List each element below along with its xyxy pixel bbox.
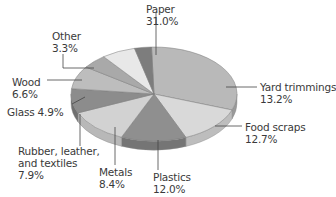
label-yard-trimmings: Yard trimmings13.2%: [260, 81, 336, 105]
label-text: Yard trimmings: [260, 81, 336, 93]
label-value: 8.4%: [99, 178, 132, 190]
label-text: Wood: [12, 76, 40, 88]
label-text: Other: [52, 30, 81, 42]
label-value: 3.3%: [52, 42, 81, 54]
label-value: 12.7%: [245, 133, 305, 145]
pie-slices: [71, 47, 237, 141]
label-value: 7.9%: [18, 169, 100, 181]
label-rubber-leather-and-textiles: Rubber, leather,and textiles7.9%: [18, 145, 100, 181]
label-paper: Paper31.0%: [146, 3, 178, 27]
label-text: and textiles: [18, 157, 100, 169]
label-value: 12.0%: [153, 183, 191, 195]
label-text: Plastics: [153, 171, 191, 183]
label-text: Rubber, leather,: [18, 145, 100, 157]
label-text: Metals: [99, 166, 132, 178]
label-wood: Wood6.6%: [12, 76, 40, 100]
label-food-scraps: Food scraps12.7%: [245, 121, 305, 145]
label-plastics: Plastics12.0%: [153, 171, 191, 195]
label-text: Food scraps: [245, 121, 305, 133]
label-text: Paper: [146, 3, 178, 15]
label-metals: Metals8.4%: [99, 166, 132, 190]
label-other: Other3.3%: [52, 30, 81, 54]
label-value: Glass 4.9%: [7, 106, 63, 118]
label-value: 13.2%: [260, 93, 336, 105]
label-value: 31.0%: [146, 15, 178, 27]
label-value: 6.6%: [12, 88, 40, 100]
label-glass: Glass 4.9%: [7, 106, 63, 118]
